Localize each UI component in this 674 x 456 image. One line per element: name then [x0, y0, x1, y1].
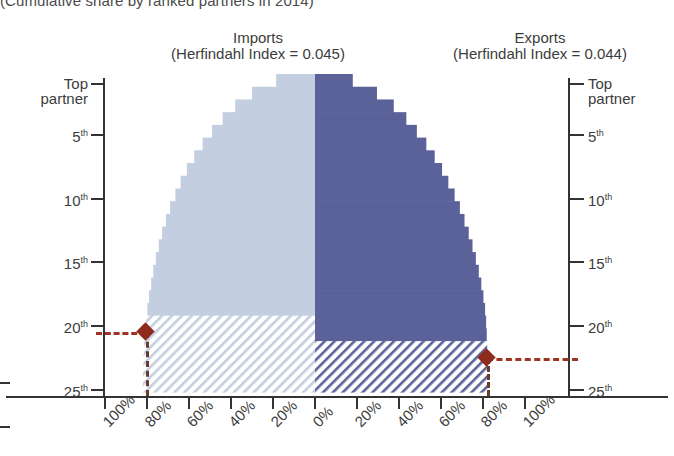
chart-subtitle: (Cumulative share by ranked partners in … [0, 0, 314, 9]
imports-marker-vline [146, 332, 149, 396]
exports-bar-rank-8 [315, 163, 442, 176]
exports-bar-rank-2 [315, 87, 377, 100]
x-tick-7 [398, 398, 400, 409]
imports-bar-rank-2 [252, 87, 315, 100]
imports-bar-rank-14 [159, 239, 315, 252]
x-tick-10 [524, 398, 526, 409]
imports-bar-rank-8 [187, 163, 315, 176]
y-tick-right-25 [570, 389, 584, 391]
exports-bar-rank-10 [315, 188, 455, 201]
exports-bar-rank-4 [315, 112, 406, 125]
x-tick-1 [146, 398, 148, 409]
x-tick-6 [356, 398, 358, 409]
y-label-right-5: 5th [588, 126, 668, 144]
imports-bar-rank-15 [156, 252, 315, 265]
exports-bar-rank-5 [315, 125, 417, 138]
exports-bar-rank-1 [315, 74, 353, 87]
y-tick-right-5 [570, 134, 584, 136]
imports-bar-rank-7 [194, 150, 315, 163]
exports-bar-rank-20 [315, 316, 486, 329]
imports-bar-rank-6 [203, 138, 315, 151]
y-label-left-20: 20th [8, 317, 88, 335]
imports-bar-rank-20 [146, 316, 315, 329]
y-label-right-15: 15th [588, 253, 668, 271]
imports-bar-rank-22 [144, 341, 315, 354]
imports-herfindahl-label: (Herfindahl Index = 0.045) [148, 46, 368, 62]
exports-bar-rank-24 [315, 367, 488, 380]
x-tick-0 [104, 398, 106, 409]
exports-bar-rank-21 [315, 328, 487, 341]
y-axis-right-line [568, 78, 570, 396]
exports-bar-rank-23 [315, 354, 487, 367]
x-tick-9 [482, 398, 484, 409]
x-tick-8 [440, 398, 442, 409]
y-axis-left-line [103, 78, 105, 396]
x-tick-5 [314, 398, 316, 409]
imports-bar-rank-16 [153, 265, 315, 278]
exports-bar-rank-7 [315, 150, 435, 163]
exports-bar-rank-16 [315, 265, 479, 278]
imports-bar-rank-9 [181, 176, 315, 189]
y-tick-left-20 [91, 325, 105, 327]
imports-bar-rank-4 [223, 112, 315, 125]
imports-bar-rank-5 [212, 125, 315, 138]
exports-bar-rank-11 [315, 201, 460, 214]
exports-bar-rank-22 [315, 341, 487, 354]
imports-bar-rank-13 [162, 227, 315, 240]
imports-bar-rank-24 [143, 367, 315, 380]
y-label-right-10: 10th [588, 190, 668, 208]
y-label-left-25: 25th [8, 381, 88, 399]
exports-herfindahl-label: (Herfindahl Index = 0.044) [430, 46, 650, 62]
exports-bar-rank-19 [315, 303, 485, 316]
y-label-right-1: Toppartner [588, 76, 668, 106]
y-tick-left-10 [91, 198, 105, 200]
y-tick-left-15 [91, 261, 105, 263]
imports-bar-rank-25 [143, 379, 315, 392]
y-tick-right-10 [570, 198, 584, 200]
y-tick-right-1 [570, 83, 584, 85]
imports-title: Imports [148, 30, 368, 46]
y-label-right-25: 25th [588, 381, 668, 399]
exports-bar-rank-17 [315, 278, 481, 291]
exports-bar-rank-25 [315, 379, 488, 392]
y-tick-left-25 [91, 389, 105, 391]
y-tick-right-15 [570, 261, 584, 263]
exports-bar-rank-13 [315, 227, 469, 240]
exports-bar-rank-12 [315, 214, 465, 227]
imports-bar-rank-19 [147, 303, 315, 316]
imports-bar-rank-10 [175, 188, 315, 201]
exports-bar-rank-6 [315, 138, 426, 151]
imports-bar-rank-21 [145, 328, 315, 341]
y-tick-right-20 [570, 325, 584, 327]
imports-bar-rank-12 [166, 214, 315, 227]
imports-bar-rank-17 [151, 278, 315, 291]
y-label-left-5: 5th [8, 126, 88, 144]
y-tick-left-1 [91, 83, 105, 85]
exports-bar-rank-9 [315, 176, 448, 189]
y-label-left-15: 15th [8, 253, 88, 271]
y-label-right-20: 20th [588, 317, 668, 335]
y-label-left-1: Toppartner [8, 76, 88, 106]
exports-bar-rank-18 [315, 290, 483, 303]
y-tick-left-5 [91, 134, 105, 136]
y-label-left-10: 10th [8, 190, 88, 208]
exports-bar-rank-3 [315, 99, 394, 112]
imports-bar-rank-11 [170, 201, 315, 214]
exports-title: Exports [430, 30, 650, 46]
exports-bar-rank-14 [315, 239, 473, 252]
exports-marker-hline [487, 358, 578, 361]
exports-panel-heading: Exports (Herfindahl Index = 0.044) [430, 30, 650, 62]
imports-panel-heading: Imports (Herfindahl Index = 0.045) [148, 30, 368, 62]
imports-bar-rank-3 [235, 99, 315, 112]
imports-bar-rank-1 [276, 74, 315, 87]
plot-area [105, 74, 525, 396]
exports-bar-rank-15 [315, 252, 476, 265]
imports-bar-rank-18 [149, 290, 315, 303]
x-tick-4 [272, 398, 274, 409]
x-tick-3 [230, 398, 232, 409]
bars-svg [105, 74, 525, 396]
imports-bar-rank-23 [143, 354, 315, 367]
x-tick-2 [188, 398, 190, 409]
